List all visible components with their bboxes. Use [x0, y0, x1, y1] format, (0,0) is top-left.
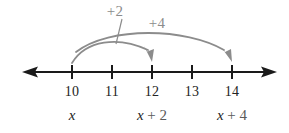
expression-number: 2	[160, 107, 168, 123]
arc-label-leader-line-plus-2	[116, 19, 122, 44]
expression-variable: x	[217, 107, 224, 123]
expression-variable: x	[137, 107, 144, 123]
arc-label-plus-4: +4	[149, 16, 166, 31]
tick-label-14: 14	[225, 85, 239, 99]
expression-label-x: x	[69, 108, 76, 123]
expression-operator: +	[224, 107, 240, 123]
number-line-diagram: +2 +4 10 11 12 13 14 x x + 2 x + 4	[0, 0, 289, 133]
axis-group	[22, 65, 277, 79]
tick-label-11: 11	[105, 85, 119, 99]
tick-label-12: 12	[145, 85, 159, 99]
arc-arrow-plus-4	[76, 33, 232, 62]
expression-variable: x	[69, 107, 76, 123]
arc-arrow-plus-2	[72, 42, 154, 63]
arc-label-plus-2: +2	[107, 4, 124, 19]
expression-number: 4	[240, 107, 248, 123]
tick-label-10: 10	[65, 85, 79, 99]
tick-label-13: 13	[185, 85, 199, 99]
expression-operator: +	[144, 107, 160, 123]
expression-label-x-plus-4: x + 4	[217, 108, 247, 123]
expression-label-x-plus-2: x + 2	[137, 108, 167, 123]
